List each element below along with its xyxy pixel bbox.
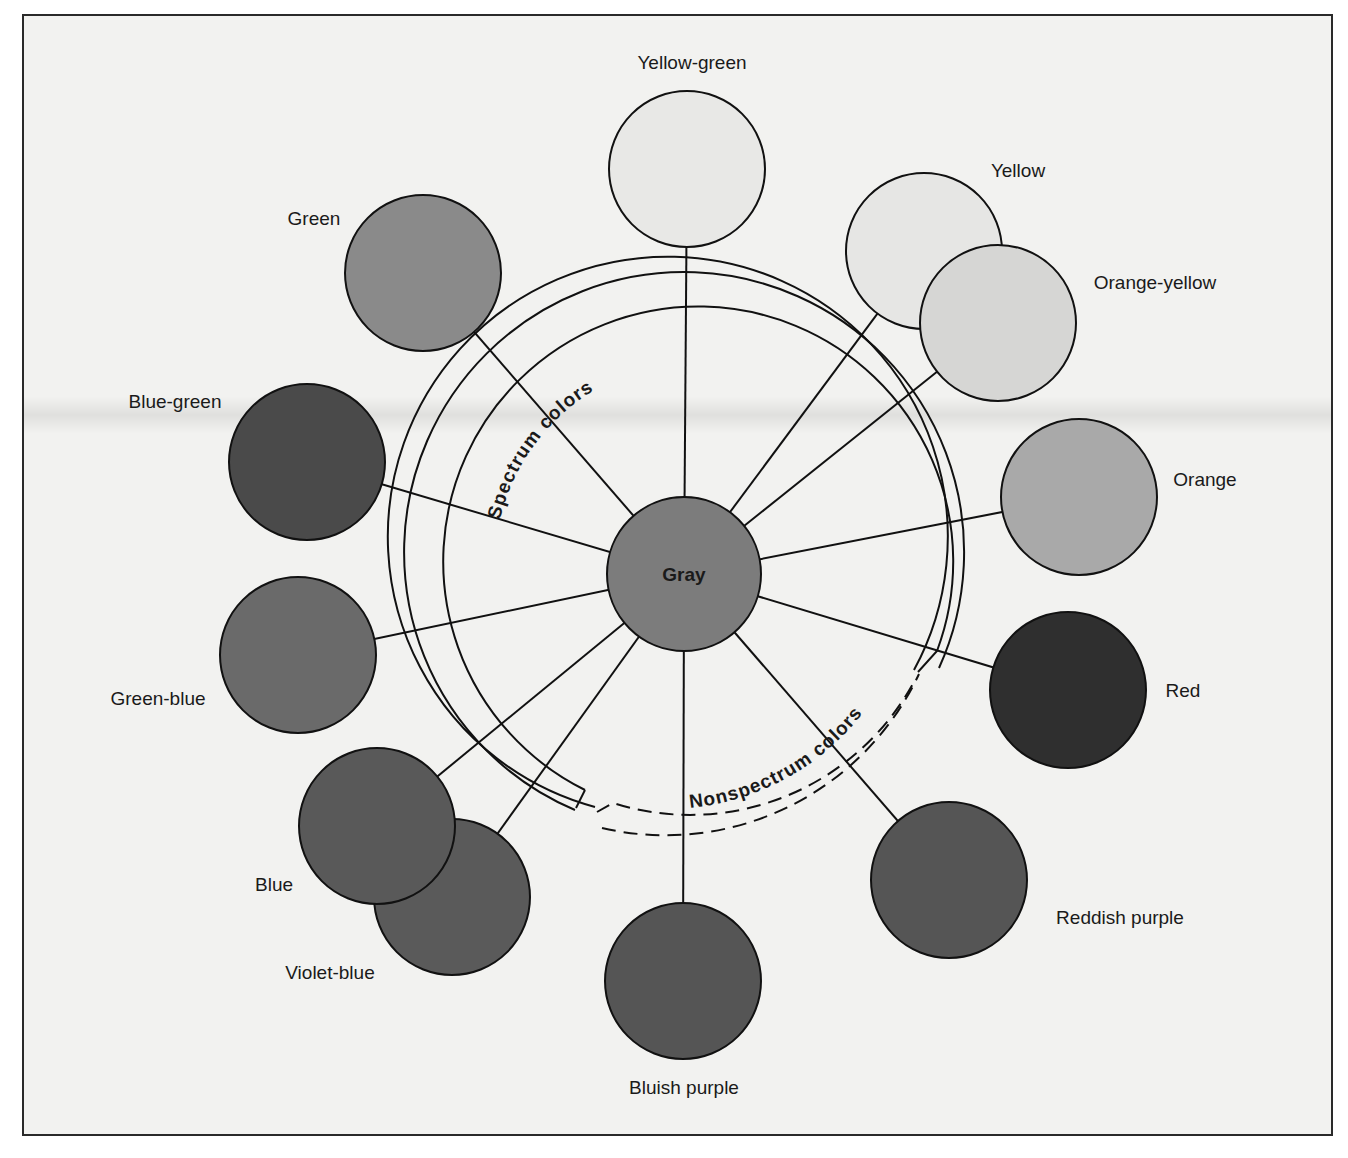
green-blue-label: Green-blue [110, 688, 205, 709]
green-label: Green [288, 208, 341, 229]
orange-yellow-circle [920, 245, 1076, 401]
blue-circle [299, 748, 455, 904]
center-circle: Gray [607, 497, 761, 651]
blue-green-circle [229, 384, 385, 540]
blue-green-label: Blue-green [129, 391, 222, 412]
green-blue-circle [220, 577, 376, 733]
orange-label: Orange [1173, 469, 1236, 490]
green-circle [345, 195, 501, 351]
red-label: Red [1166, 680, 1201, 701]
reddish-purple-circle [871, 802, 1027, 958]
orange-circle [1001, 419, 1157, 575]
orange-yellow-label: Orange-yellow [1094, 272, 1217, 293]
red-circle [990, 612, 1146, 768]
yellow-green-circle [609, 91, 765, 247]
yellow-green-label: Yellow-green [637, 52, 746, 73]
bluish-purple-label: Bluish purple [629, 1077, 739, 1098]
blue-label: Blue [255, 874, 293, 895]
reddish-purple-label: Reddish purple [1056, 907, 1184, 928]
bluish-purple-circle [605, 903, 761, 1059]
nonspectrum-arc [597, 674, 919, 835]
color-wheel-diagram: Gray Spectrum colors Nonspectrum colors … [0, 0, 1348, 1158]
violet-blue-label: Violet-blue [285, 962, 374, 983]
spectrum-colors-label: Spectrum colors [483, 376, 596, 521]
yellow-label: Yellow [991, 160, 1046, 181]
gray-label: Gray [662, 564, 706, 585]
nonspectrum-colors-label: Nonspectrum colors [688, 702, 866, 812]
